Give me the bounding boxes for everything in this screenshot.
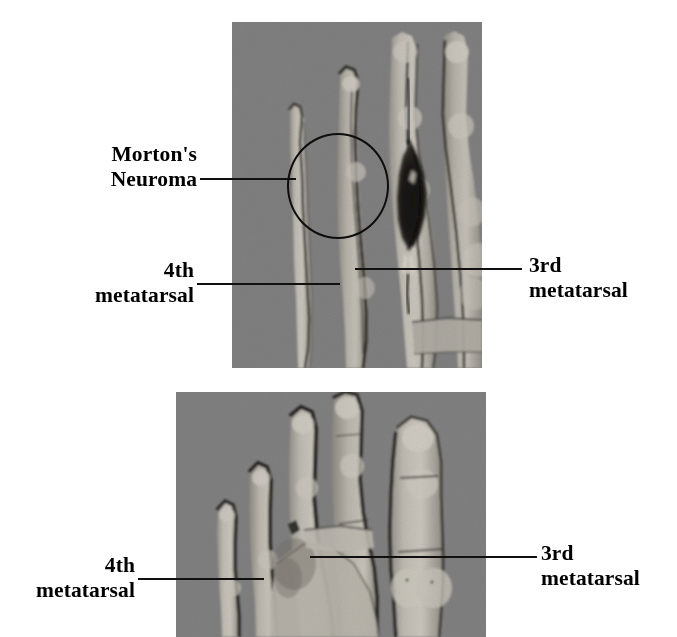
label-top-fourth-metatarsal-line1: 4th xyxy=(164,258,194,282)
label-bottom-fourth-metatarsal-line2: metatarsal xyxy=(36,578,135,602)
leader-line-bottom-fourth-metatarsal xyxy=(138,578,264,580)
label-top-third-metatarsal: 3rdmetatarsal xyxy=(529,253,677,304)
neuroma-highlight-circle xyxy=(287,133,389,239)
leader-line-bottom-third-metatarsal-inner xyxy=(310,556,482,558)
leader-line-mortons-neuroma xyxy=(200,178,296,180)
bottom-panel-graphic xyxy=(176,392,486,637)
label-bottom-third-metatarsal-line2: metatarsal xyxy=(541,566,640,590)
leader-line-top-fourth-metatarsal xyxy=(197,283,340,285)
label-bottom-fourth-metatarsal: 4thmetatarsal xyxy=(0,553,135,604)
figure-container: Morton'sNeuroma 4thmetatarsal 3rdmetatar… xyxy=(0,0,677,637)
label-top-third-metatarsal-line2: metatarsal xyxy=(529,278,628,302)
label-top-fourth-metatarsal: 4thmetatarsal xyxy=(28,258,194,309)
label-top-fourth-metatarsal-line2: metatarsal xyxy=(95,283,194,307)
leader-line-bottom-third-metatarsal xyxy=(480,556,537,558)
label-mortons-neuroma-line1: Morton's xyxy=(111,142,197,166)
label-top-third-metatarsal-line1: 3rd xyxy=(529,253,562,277)
leader-line-top-third-metatarsal xyxy=(355,268,522,270)
label-mortons-neuroma-line2: Neuroma xyxy=(111,167,197,191)
photograph-bottom-panel xyxy=(176,392,486,637)
label-mortons-neuroma: Morton'sNeuroma xyxy=(57,142,197,193)
label-bottom-fourth-metatarsal-line1: 4th xyxy=(105,553,135,577)
label-bottom-third-metatarsal: 3rdmetatarsal xyxy=(541,541,677,592)
label-bottom-third-metatarsal-line1: 3rd xyxy=(541,541,574,565)
